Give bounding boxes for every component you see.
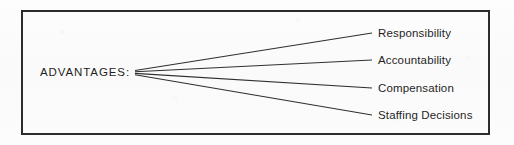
figure-canvas: ADVANTAGES: Responsibility Accountabilit…	[0, 0, 514, 145]
branch-label-compensation: Compensation	[378, 81, 454, 95]
source-node-label: ADVANTAGES:	[40, 65, 130, 79]
branch-label-responsibility: Responsibility	[378, 26, 451, 40]
branch-label-staffing-decisions: Staffing Decisions	[378, 108, 473, 122]
branch-label-accountability: Accountability	[378, 53, 451, 67]
